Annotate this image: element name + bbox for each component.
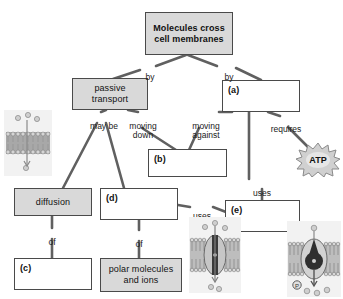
edge-label-uses-vertical-text: uses bbox=[253, 188, 271, 198]
node-c: (c) bbox=[14, 258, 92, 290]
node-passive-transport-label: passive transport bbox=[92, 83, 128, 105]
node-polar-molecules-and-ions: polar molecules and ions bbox=[100, 258, 182, 292]
node-polar-molecules-and-ions-label: polar molecules and ions bbox=[109, 264, 174, 286]
edge-label-may-be-text: may be bbox=[90, 121, 118, 131]
edge-label-of-right-text: of bbox=[135, 239, 142, 249]
edge-label-of-left-text: of bbox=[48, 237, 55, 247]
node-e-label: (e) bbox=[231, 205, 242, 216]
node-d: (d) bbox=[100, 188, 178, 220]
node-b: (b) bbox=[148, 149, 227, 177]
edge-label-by-left-text: by bbox=[146, 72, 155, 82]
edge-label-by-right-text: by bbox=[225, 72, 234, 82]
edge-label-of-right: of bbox=[132, 230, 146, 249]
edge-label-moving-down-text: moving down bbox=[129, 121, 156, 141]
edge-label-uses-vertical: uses bbox=[250, 179, 274, 198]
atp-label: ATP bbox=[309, 155, 326, 165]
node-a: (a) bbox=[222, 80, 300, 112]
node-diffusion: diffusion bbox=[14, 188, 92, 216]
edge-label-may-be: may be bbox=[86, 112, 122, 131]
edge-label-by-right: by bbox=[220, 63, 238, 82]
node-d-label: (d) bbox=[106, 193, 118, 204]
edge-label-by-left: by bbox=[141, 63, 159, 82]
node-diffusion-label: diffusion bbox=[36, 197, 70, 208]
node-root: Molecules cross cell membranes bbox=[145, 12, 233, 55]
node-c-label: (c) bbox=[20, 263, 31, 274]
node-b-label: (b) bbox=[154, 154, 166, 165]
concept-map: Molecules cross cell membranes passive t… bbox=[0, 0, 343, 299]
node-root-label: Molecules cross cell membranes bbox=[153, 23, 225, 45]
edge-label-of-left: of bbox=[45, 228, 59, 247]
membrane-channel-protein-illustration bbox=[189, 217, 241, 293]
atp-starburst: ATP bbox=[296, 143, 340, 177]
node-a-label: (a) bbox=[228, 85, 239, 96]
edge-label-moving-against-text: moving against bbox=[192, 121, 219, 141]
node-passive-transport: passive transport bbox=[72, 78, 148, 110]
membrane-simple-diffusion-illustration bbox=[4, 110, 52, 176]
edge-label-moving-against: moving against bbox=[186, 112, 226, 141]
svg-text:P: P bbox=[295, 283, 299, 289]
edge-label-moving-down: moving down bbox=[125, 112, 161, 141]
membrane-pump-protein-illustration: P bbox=[287, 221, 341, 297]
edge-label-requires-text: requires bbox=[271, 124, 302, 134]
edge-label-requires: requires bbox=[268, 115, 304, 134]
